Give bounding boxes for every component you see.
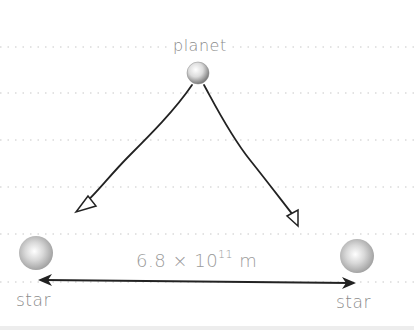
distance-base: 10 bbox=[194, 250, 218, 271]
planet-label: planet bbox=[171, 36, 229, 55]
star-left-icon bbox=[19, 236, 53, 270]
planet-icon bbox=[187, 62, 209, 84]
star-right-label: star bbox=[336, 292, 371, 312]
star-left-label: star bbox=[16, 290, 51, 310]
distance-mantissa: 6.8 bbox=[136, 250, 166, 271]
distance-exponent: 11 bbox=[218, 248, 233, 261]
force-arrow-left bbox=[76, 85, 192, 212]
distance-label: 6.8 × 1011 m bbox=[136, 250, 257, 271]
distance-arrow bbox=[38, 274, 356, 289]
star-right-icon bbox=[340, 239, 374, 273]
bottom-border bbox=[0, 326, 414, 330]
force-arrow-right bbox=[204, 85, 298, 226]
times-sign: × bbox=[172, 250, 188, 271]
distance-unit: m bbox=[239, 250, 257, 271]
gravity-diagram: planet 6.8 × 1011 m star star bbox=[0, 0, 414, 330]
